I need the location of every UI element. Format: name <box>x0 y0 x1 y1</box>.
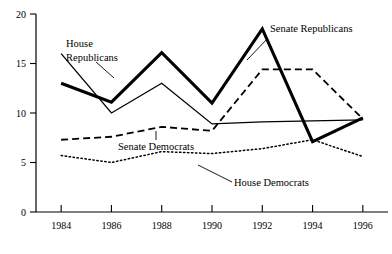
x-tick-label-1992: 1992 <box>252 220 272 231</box>
x-tick-label-1984: 1984 <box>51 220 71 231</box>
series-label-senate-democrats: Senate Democrats <box>118 141 194 152</box>
annotation-leader-house-democrats <box>198 165 232 182</box>
y-tick-label-15: 15 <box>16 58 26 69</box>
chart-series-group <box>61 29 363 163</box>
x-tick-label-1988: 1988 <box>152 220 172 231</box>
series-line-senate-republicans <box>61 29 363 142</box>
chart-annotations-group: HouseRepublicansSenate RepublicansSenate… <box>66 23 353 188</box>
y-tick-label-20: 20 <box>16 9 26 20</box>
x-tick-label-1996: 1996 <box>353 220 373 231</box>
series-label-house-democrats: House Democrats <box>234 177 309 188</box>
x-tick-label-1986: 1986 <box>101 220 121 231</box>
y-tick-label-10: 10 <box>16 108 26 119</box>
annotation-leader-house-republicans <box>96 62 114 78</box>
line-chart: 05101520 1984198619881990199219941996 Ho… <box>0 0 392 254</box>
x-tick-label-1990: 1990 <box>202 220 222 231</box>
series-label-house-republicans: HouseRepublicans <box>66 38 118 63</box>
x-tick-label-1994: 1994 <box>303 220 323 231</box>
series-line-house-republicans <box>61 54 363 124</box>
y-axis-ticks: 05101520 <box>16 9 36 218</box>
chart-canvas: 05101520 1984198619881990199219941996 Ho… <box>0 0 392 254</box>
series-label-senate-republicans: Senate Republicans <box>270 23 353 34</box>
y-tick-label-5: 5 <box>21 157 26 168</box>
series-line-house-democrats <box>61 140 363 163</box>
y-tick-label-0: 0 <box>21 207 26 218</box>
x-axis-ticks: 1984198619881990199219941996 <box>51 205 373 231</box>
